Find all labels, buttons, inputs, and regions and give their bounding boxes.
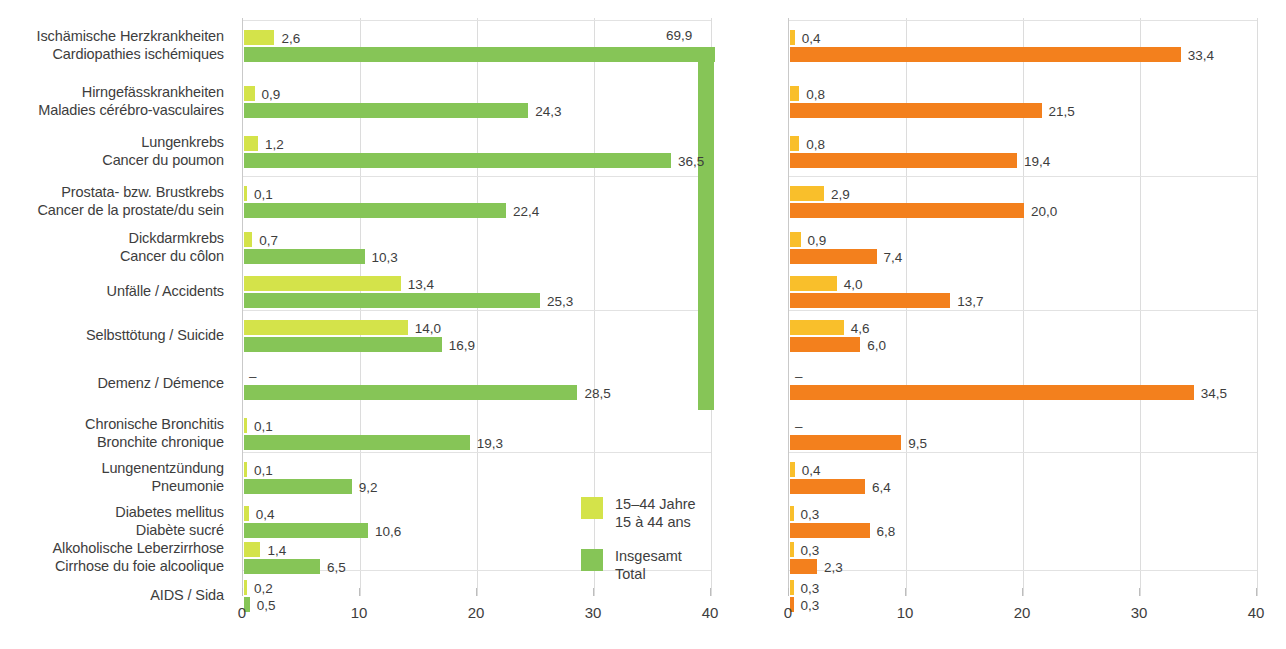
- x-tick-label: 40: [702, 604, 719, 621]
- category-label-de: Hirngefässkrankheiten: [38, 84, 224, 102]
- row-separator: [243, 20, 711, 21]
- x-tick-mark: [710, 588, 711, 596]
- bar-value-total: 28,5: [584, 386, 610, 401]
- bar-value-sub: 2,9: [831, 187, 850, 202]
- bar-total-women: [790, 523, 870, 538]
- bar-value-sub: 0,1: [254, 463, 273, 478]
- bar-value-total: 36,5: [678, 154, 704, 169]
- x-tick-label: 20: [1014, 604, 1031, 621]
- bar-total-men: [244, 337, 442, 352]
- bar-value-sub: 0,2: [254, 581, 273, 596]
- bar-value-sub: 0,9: [808, 233, 827, 248]
- bar-total-men: [244, 385, 577, 400]
- gridline-30: [1140, 18, 1141, 596]
- category-label: LungenkrebsCancer du poumon: [102, 134, 224, 169]
- bar-total-men: [244, 523, 368, 538]
- category-label-de: AIDS / Sida: [150, 587, 224, 605]
- bar-sub-men: [244, 320, 408, 335]
- bar-value-sub: 0,1: [254, 419, 273, 434]
- bar-sub-men: [244, 86, 255, 101]
- category-label-fr: Pneumonie: [101, 478, 224, 496]
- bar-value-sub: 0,3: [801, 543, 820, 558]
- bar-value-sub: 0,7: [259, 233, 278, 248]
- legend-swatch: [581, 497, 603, 519]
- bar-total-men: [244, 435, 470, 450]
- legend-item: InsgesamtTotal: [581, 547, 696, 583]
- bar-total-men: [244, 153, 671, 168]
- x-tick-label: 30: [585, 604, 602, 621]
- category-label: Chronische BronchitisBronchite chronique: [85, 416, 224, 451]
- category-label-column: Ischämische HerzkrankheitenCardiopathies…: [0, 0, 232, 649]
- x-tick-label: 10: [351, 604, 368, 621]
- category-label: Diabetes mellitusDiabète sucré: [115, 504, 224, 539]
- bar-value-sub: 0,8: [806, 137, 825, 152]
- row-separator: [243, 452, 711, 453]
- category-label-fr: Maladies cérébro-vasculaires: [38, 102, 224, 120]
- bar-value-sub: 0,4: [802, 463, 821, 478]
- bar-sub-women: [790, 320, 844, 335]
- bar-value-total: 24,3: [535, 104, 561, 119]
- category-label-de: Unfälle / Accidents: [107, 283, 224, 301]
- bar-value-total: 16,9: [449, 338, 475, 353]
- bar-total-women: [790, 293, 950, 308]
- category-label: HirngefässkrankheitenMaladies cérébro-va…: [38, 84, 224, 119]
- legend-label-fr: 15 à 44 ans: [615, 513, 696, 531]
- x-tick-mark: [242, 588, 243, 596]
- bar-sub-men: [244, 30, 274, 45]
- x-tick-label: 0: [784, 604, 792, 621]
- bar-total-women: [790, 385, 1194, 400]
- bar-value-sub: 1,2: [265, 137, 284, 152]
- bar-value-sub: 13,4: [408, 277, 434, 292]
- bar-value-total: 6,0: [867, 338, 886, 353]
- bar-total-men: [244, 249, 365, 264]
- legend-swatch: [581, 549, 603, 571]
- bar-total-women: [790, 479, 865, 494]
- bar-value-sub: 0,4: [802, 31, 821, 46]
- bar-value-total: 6,8: [877, 524, 896, 539]
- bar-value-total: 6,5: [327, 560, 346, 575]
- bar-sub-women: [790, 462, 795, 477]
- bar-value-total: 2,3: [824, 560, 843, 575]
- bar-value-total: 21,5: [1049, 104, 1075, 119]
- bar-sub-women: [790, 506, 794, 521]
- category-label-de: Prostata- bzw. Brustkrebs: [37, 184, 224, 202]
- x-axis-women: 010203040: [788, 596, 1256, 636]
- bar-total-women: [790, 103, 1042, 118]
- bar-value-total: 10,3: [372, 250, 398, 265]
- legend-label: 15–44 Jahre15 à 44 ans: [615, 495, 696, 531]
- category-label-fr: Cancer de la prostate/du sein: [37, 202, 224, 220]
- bar-sub-men: [244, 276, 401, 291]
- bar-sub-women: [790, 86, 799, 101]
- bar-value-total: 13,7: [957, 294, 983, 309]
- x-tick-mark: [1139, 588, 1140, 596]
- bar-sub-men: [244, 542, 260, 557]
- category-label-de: Diabetes mellitus: [115, 504, 224, 522]
- bar-value-total: 25,3: [547, 294, 573, 309]
- x-tick-mark: [476, 588, 477, 596]
- plot-area-women: 0,433,40,821,50,819,42,920,00,97,44,013,…: [788, 18, 1257, 596]
- bar-value-sub: 0,1: [254, 187, 273, 202]
- bar-sub-men: [244, 136, 258, 151]
- category-label-fr: Cirrhose du foie alcoolique: [53, 558, 225, 576]
- bar-total-men: [244, 479, 352, 494]
- bar-value-total: 22,4: [513, 204, 539, 219]
- x-tick-mark: [788, 588, 789, 596]
- row-separator: [789, 310, 1257, 311]
- bar-total-women: [790, 47, 1181, 62]
- bar-total-women: [790, 559, 817, 574]
- bar-value-total: 19,4: [1024, 154, 1050, 169]
- bar-value-total: 10,6: [375, 524, 401, 539]
- legend-label-fr: Total: [615, 565, 682, 583]
- legend-label-de: Insgesamt: [615, 547, 682, 565]
- bar-total-women: [790, 153, 1017, 168]
- legend-label-de: 15–44 Jahre: [615, 495, 696, 513]
- category-label-de: Lungenkrebs: [102, 134, 224, 152]
- bar-value-sub: 0,4: [256, 507, 275, 522]
- category-label-de: Chronische Bronchitis: [85, 416, 224, 434]
- bar-total-men: [244, 47, 715, 62]
- bar-sub-men: [244, 506, 249, 521]
- bar-sub-women: [790, 276, 837, 291]
- legend-label: InsgesamtTotal: [615, 547, 682, 583]
- category-label-de: Demenz / Démence: [97, 375, 224, 393]
- row-separator: [789, 570, 1257, 571]
